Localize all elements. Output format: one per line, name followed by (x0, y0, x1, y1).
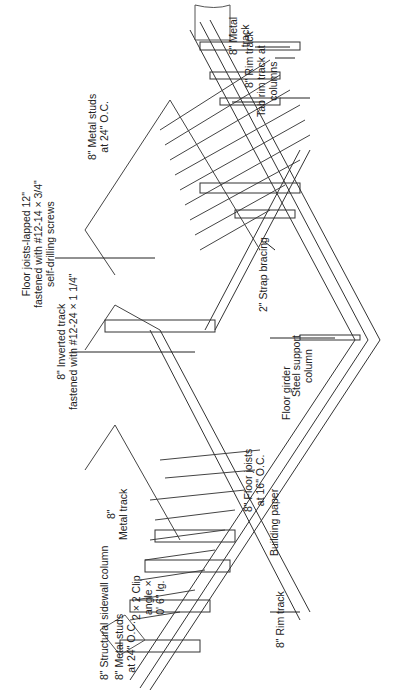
label-tab-rim-track: Tab rim track at columns (255, 45, 279, 117)
label-floor-joists-lapped: Floor joists-lapped 12" fastened with #1… (20, 180, 56, 308)
label-inverted-track: 8" Inverted track fastened with #12-24 ×… (55, 273, 79, 410)
label-strap-bracing: 2" Strap bracing (257, 237, 269, 312)
label-floor-girder: Floor girder (280, 366, 292, 420)
label-building-paper: Building paper (268, 489, 280, 556)
label-rim-track-top: 8" Rim track (243, 31, 255, 88)
label-structural-sidewall-column: 8" Structural sidewall column (98, 546, 110, 680)
columns (105, 42, 360, 652)
label-floor-joists-16: 8" Floor joists at 16" O.C. (242, 449, 266, 512)
rim-outline (130, 20, 380, 690)
floor-joists (130, 60, 310, 620)
label-metal-studs-top: 8" Metal studs at 24" O.C. (86, 94, 110, 160)
label-metal-track-bottom: 8" Metal track (105, 489, 129, 540)
label-steel-support-column: Steel support column (290, 335, 314, 397)
label-metal-studs-bottom: 8" Metal studs at 24" O.C. (113, 614, 137, 680)
label-rim-track-bottom: 8" Rim track (274, 591, 286, 648)
